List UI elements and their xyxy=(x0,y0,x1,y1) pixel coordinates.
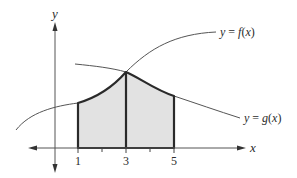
y-axis-label: y xyxy=(50,6,58,21)
y-axis-up-arrow-icon xyxy=(53,22,58,31)
label-g-rp: ) xyxy=(277,111,281,125)
label-g: y = g(x) xyxy=(243,111,281,125)
tick-label-5: 5 xyxy=(171,154,177,168)
x-axis-label: x xyxy=(249,140,256,155)
tick-label-3: 3 xyxy=(123,154,129,168)
label-f-eq: = xyxy=(225,25,238,39)
x-axis-right-arrow-icon xyxy=(237,146,246,151)
label-f: y = f(x) xyxy=(219,25,255,39)
curve-g-right xyxy=(174,96,240,118)
x-axis-left-arrow-icon xyxy=(28,146,37,151)
label-f-rp: ) xyxy=(251,25,255,39)
curve-g xyxy=(75,64,126,72)
curve-f xyxy=(16,103,78,130)
area-between-curves-diagram: 1 3 5 x y y = f(x) y = g(x) xyxy=(0,0,297,178)
curve-f-upper xyxy=(126,32,216,72)
label-g-eq: = xyxy=(249,111,262,125)
tick-label-1: 1 xyxy=(75,154,81,168)
y-axis-down-arrow-icon xyxy=(53,164,58,173)
